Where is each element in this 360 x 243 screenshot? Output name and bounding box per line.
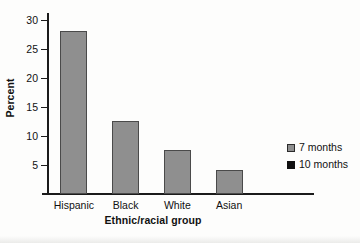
bar-black-7-months [112, 121, 139, 194]
x-axis-tick-label: Asian [189, 199, 269, 211]
y-axis-tick [41, 165, 48, 166]
scan-edge-shading [0, 236, 360, 243]
y-axis-tick [41, 49, 48, 50]
bar-white-7-months [164, 150, 191, 194]
chart-legend: 7 months 10 months [287, 140, 359, 174]
bar-chart-figure: 51015202530 Percent HispanicBlackWhiteAs… [0, 0, 360, 243]
y-axis-tick [41, 107, 48, 108]
y-axis-tick-label: 5 [16, 160, 38, 170]
y-axis-tick [41, 78, 48, 79]
y-axis-tick [41, 136, 48, 137]
legend-label-10-months: 10 months [299, 159, 348, 170]
bar-hispanic-7-months [60, 31, 87, 194]
x-axis-title: Ethnic/racial group [48, 214, 258, 226]
bar-asian-7-months [216, 170, 243, 194]
y-axis-tick-label: 30 [16, 15, 38, 25]
y-axis-tick-label: 25 [16, 44, 38, 54]
legend-swatch-icon-10-months [287, 161, 295, 169]
y-axis-tick-label: 20 [16, 73, 38, 83]
y-axis-tick [41, 20, 48, 21]
y-axis-tick-label: 15 [16, 102, 38, 112]
legend-label-7-months: 7 months [299, 142, 342, 153]
y-axis-title: Percent [4, 68, 16, 128]
y-axis-tick-label: 10 [16, 131, 38, 141]
plot-area [48, 14, 255, 194]
legend-item-10-months: 10 months [287, 157, 359, 172]
legend-item-7-months: 7 months [287, 140, 359, 155]
legend-swatch-icon-7-months [287, 144, 295, 152]
